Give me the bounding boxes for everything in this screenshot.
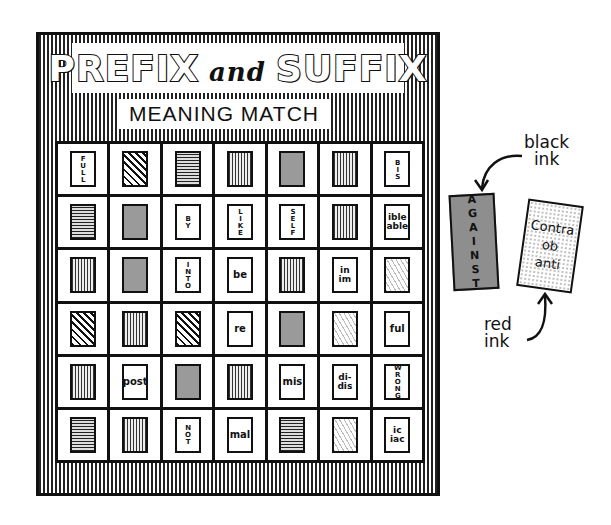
grid-cell xyxy=(163,357,212,407)
pattern-card xyxy=(175,151,201,187)
card-grid: FULLBISBYLIKESELFible ableINTObein imref… xyxy=(55,141,425,463)
grid-cell: mal xyxy=(215,410,264,460)
word-card: ic iac xyxy=(384,417,410,453)
word-card: INTO xyxy=(175,257,201,293)
pattern-card xyxy=(70,204,96,240)
pattern-card xyxy=(122,151,148,187)
grid-cell: BIS xyxy=(373,144,422,194)
red-ink-card-text: Contra ob anti xyxy=(525,216,576,276)
title-prefix: PREFIX xyxy=(49,48,199,89)
pattern-card xyxy=(70,417,96,453)
title-banner: PREFIXandSUFFIX xyxy=(72,43,404,93)
grid-cell xyxy=(215,357,264,407)
grid-cell xyxy=(320,304,369,354)
grid-cell xyxy=(163,304,212,354)
pattern-card xyxy=(227,364,253,400)
word-card: ful xyxy=(384,311,410,347)
board-subtitle: MEANING MATCH xyxy=(129,102,319,126)
grid-cell xyxy=(215,144,264,194)
grid-cell xyxy=(268,304,317,354)
pattern-card xyxy=(70,311,96,347)
grid-cell xyxy=(110,144,159,194)
arrow-icon xyxy=(470,150,530,195)
pattern-card xyxy=(332,311,358,347)
grid-cell: re xyxy=(215,304,264,354)
grid-cell: ible able xyxy=(373,197,422,247)
game-board: PREFIXandSUFFIX MEANING MATCH FULLBISBYL… xyxy=(36,32,440,496)
arrow-icon xyxy=(525,292,565,342)
pattern-card xyxy=(279,311,305,347)
word-card: mal xyxy=(227,417,253,453)
word-card: in im xyxy=(332,257,358,293)
pattern-card xyxy=(122,311,148,347)
grid-cell: LIKE xyxy=(215,197,264,247)
pattern-card xyxy=(279,417,305,453)
pattern-card xyxy=(279,151,305,187)
grid-cell: FULL xyxy=(58,144,107,194)
pattern-card xyxy=(384,257,410,293)
grid-cell xyxy=(58,197,107,247)
grid-cell xyxy=(110,197,159,247)
black-ink-card-text: AGAINST xyxy=(465,193,483,292)
pattern-card xyxy=(122,257,148,293)
pattern-card xyxy=(122,204,148,240)
word-card: be xyxy=(227,257,253,293)
pattern-card xyxy=(227,151,253,187)
grid-cell xyxy=(58,357,107,407)
pattern-card xyxy=(279,257,305,293)
pattern-card xyxy=(70,364,96,400)
word-card: ible able xyxy=(384,204,410,240)
pattern-card xyxy=(175,311,201,347)
grid-cell xyxy=(163,144,212,194)
grid-cell: SELF xyxy=(268,197,317,247)
word-card: FULL xyxy=(70,151,96,187)
grid-cell xyxy=(320,410,369,460)
pattern-card xyxy=(332,204,358,240)
word-card: SELF xyxy=(279,204,305,240)
grid-cell xyxy=(58,304,107,354)
grid-cell xyxy=(320,197,369,247)
grid-cell: WRONG xyxy=(373,357,422,407)
black-ink-sample-card: AGAINST xyxy=(449,193,500,291)
grid-cell xyxy=(110,250,159,300)
word-card: NOT xyxy=(175,417,201,453)
grid-cell: post xyxy=(110,357,159,407)
word-card: re xyxy=(227,311,253,347)
word-card: BY xyxy=(175,204,201,240)
grid-cell: be xyxy=(215,250,264,300)
pattern-card xyxy=(332,417,358,453)
title-and: and xyxy=(209,57,266,87)
grid-cell xyxy=(58,250,107,300)
title-suffix: SUFFIX xyxy=(276,48,428,89)
grid-cell xyxy=(268,250,317,300)
grid-cell xyxy=(110,304,159,354)
red-ink-label: red ink xyxy=(484,316,512,350)
grid-cell: in im xyxy=(320,250,369,300)
grid-cell: ful xyxy=(373,304,422,354)
pattern-card xyxy=(122,417,148,453)
word-card: post xyxy=(122,364,148,400)
red-ink-sample-card: Contra ob anti xyxy=(516,199,584,294)
grid-cell xyxy=(320,144,369,194)
grid-cell: mis xyxy=(268,357,317,407)
grid-cell: di- dis xyxy=(320,357,369,407)
word-card: WRONG xyxy=(384,364,410,400)
pattern-card xyxy=(70,257,96,293)
pattern-card xyxy=(332,151,358,187)
grid-cell xyxy=(110,410,159,460)
word-card: di- dis xyxy=(332,364,358,400)
grid-cell: INTO xyxy=(163,250,212,300)
board-title: PREFIXandSUFFIX xyxy=(49,48,428,89)
word-card: LIKE xyxy=(227,204,253,240)
grid-cell: NOT xyxy=(163,410,212,460)
word-card: mis xyxy=(279,364,305,400)
grid-cell: ic iac xyxy=(373,410,422,460)
grid-cell xyxy=(373,250,422,300)
grid-cell xyxy=(268,144,317,194)
word-card: BIS xyxy=(384,151,410,187)
subtitle-banner: MEANING MATCH xyxy=(119,99,329,129)
grid-cell xyxy=(268,410,317,460)
grid-cell xyxy=(58,410,107,460)
black-ink-label: black ink xyxy=(524,134,569,168)
grid-cell: BY xyxy=(163,197,212,247)
